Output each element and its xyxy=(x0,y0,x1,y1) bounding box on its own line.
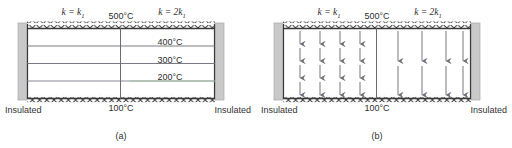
conductivity-label-right: k = 2k1 xyxy=(158,7,186,19)
insulated-label-left: Insulated xyxy=(5,105,42,115)
isotherm-label-300: 300°C xyxy=(157,55,182,65)
insulated-block-right xyxy=(471,23,480,100)
boundary-top-hatch xyxy=(283,22,471,29)
boundary-temp-bottom: 100°C xyxy=(364,103,389,113)
insulated-block-left xyxy=(18,23,27,100)
insulated-block-left xyxy=(274,23,283,100)
figure-panel-a: k = k1 k = 2k1 500°C 400°C 300°C 200°C 1… xyxy=(0,0,256,148)
panel-caption-b: (b) xyxy=(372,131,383,141)
insulated-block-right xyxy=(215,23,224,100)
figure-panel-b: k = k1 k = 2k1 500°C 100°C Insulated Ins… xyxy=(256,0,512,148)
boundary-temp-top: 500°C xyxy=(364,11,389,21)
boundary-top-hatch xyxy=(27,22,215,29)
conductivity-label-left: k = k1 xyxy=(318,7,341,19)
conductivity-label-right: k = 2k1 xyxy=(414,7,442,19)
panel-a-drawing xyxy=(0,0,256,148)
boundary-temp-bottom: 100°C xyxy=(108,103,133,113)
panel-caption-a: (a) xyxy=(116,131,127,141)
conductivity-label-left: k = k1 xyxy=(62,7,85,19)
panel-b-drawing xyxy=(256,0,512,148)
boundary-temp-top: 500°C xyxy=(108,11,133,21)
isotherm-label-200: 200°C xyxy=(157,72,182,82)
insulated-label-left: Insulated xyxy=(261,105,298,115)
insulated-label-right: Insulated xyxy=(214,105,251,115)
flux-arrows-left-region xyxy=(300,31,360,95)
isotherm-label-400: 400°C xyxy=(157,37,182,47)
insulated-label-right: Insulated xyxy=(470,105,507,115)
flux-arrows-right-region xyxy=(398,31,463,95)
